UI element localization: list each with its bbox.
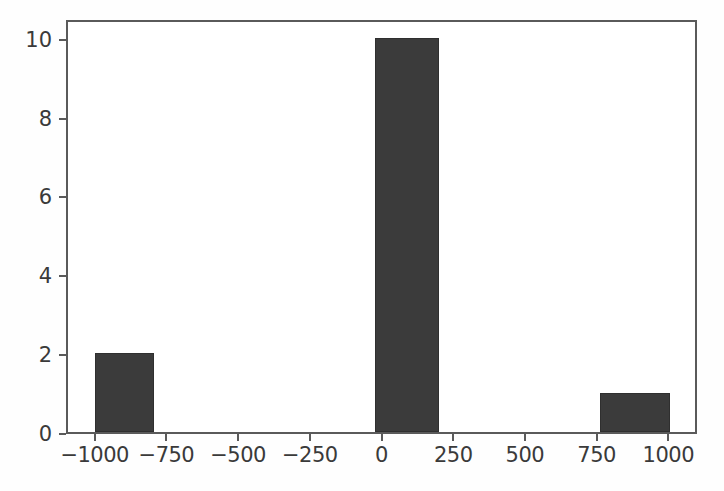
- y-tick-mark: [59, 196, 66, 198]
- y-tick-label: 8: [0, 107, 52, 131]
- histogram-figure: −1000−750−500−25002505007501000 0246810: [0, 0, 724, 491]
- bar: [600, 393, 670, 432]
- x-tick-label: −500: [210, 443, 266, 467]
- plot-frame: [66, 20, 697, 434]
- x-tick-mark: [94, 434, 96, 441]
- x-tick-label: −1000: [60, 443, 129, 467]
- x-tick-mark: [667, 434, 669, 441]
- y-tick-label: 10: [0, 28, 52, 52]
- x-tick-label: −750: [139, 443, 195, 467]
- x-tick-mark: [165, 434, 167, 441]
- x-tick-label: 750: [577, 443, 616, 467]
- plot-area: [68, 22, 695, 432]
- bar: [95, 353, 154, 432]
- y-tick-mark: [59, 354, 66, 356]
- x-tick-mark: [237, 434, 239, 441]
- y-tick-label: 6: [0, 185, 52, 209]
- x-tick-label: −250: [282, 443, 338, 467]
- x-tick-mark: [452, 434, 454, 441]
- y-tick-mark: [59, 118, 66, 120]
- x-tick-mark: [381, 434, 383, 441]
- y-tick-mark: [59, 39, 66, 41]
- x-tick-label: 0: [375, 443, 388, 467]
- x-tick-label: 250: [434, 443, 473, 467]
- x-tick-mark: [524, 434, 526, 441]
- y-tick-label: 4: [0, 264, 52, 288]
- x-tick-mark: [596, 434, 598, 441]
- y-tick-mark: [59, 275, 66, 277]
- x-tick-mark: [309, 434, 311, 441]
- y-tick-label: 0: [0, 422, 52, 446]
- x-tick-label: 1000: [643, 443, 694, 467]
- x-tick-label: 500: [506, 443, 545, 467]
- y-tick-label: 2: [0, 343, 52, 367]
- y-tick-mark: [59, 433, 66, 435]
- bar: [375, 38, 440, 432]
